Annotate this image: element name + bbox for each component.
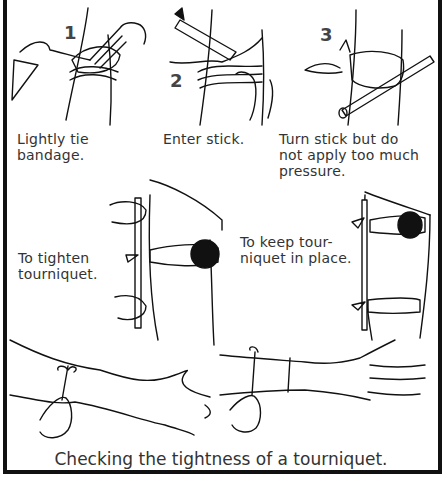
tighten-caption: To tighten tourniquet. bbox=[18, 250, 98, 282]
step-2-caption: Enter stick. bbox=[163, 131, 244, 147]
step1-drawing bbox=[12, 8, 146, 125]
step-1-caption: Lightly tie bandage. bbox=[17, 131, 89, 163]
check-arm-right-drawing bbox=[220, 340, 425, 432]
keep-in-place-caption: To keep tour- niquet in place. bbox=[240, 234, 352, 266]
tourniquet-illustration bbox=[0, 0, 442, 478]
tighten-drawing bbox=[110, 180, 222, 345]
step-2-number: 2 bbox=[170, 70, 183, 91]
step2-drawing bbox=[170, 8, 273, 125]
check-arm-left-drawing bbox=[10, 340, 210, 438]
step-3-caption: Turn stick but do not apply too much pre… bbox=[279, 131, 419, 179]
step-3-number: 3 bbox=[320, 24, 333, 45]
figure-title: Checking the tightness of a tourniquet. bbox=[0, 449, 442, 469]
step-1-number: 1 bbox=[64, 22, 77, 43]
keep-in-place-drawing bbox=[352, 192, 430, 340]
